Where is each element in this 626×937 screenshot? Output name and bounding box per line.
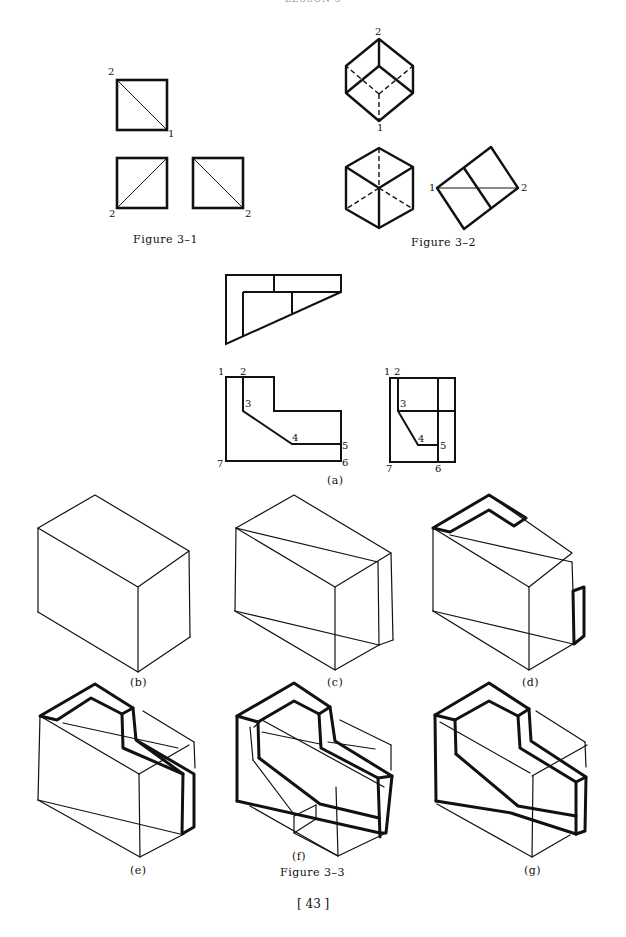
sketch-g xyxy=(435,683,587,857)
subfigure-c-caption: (c) xyxy=(327,676,343,689)
subfigure-f-caption: (f) xyxy=(292,850,306,863)
subfigure-e-caption: (e) xyxy=(130,864,147,877)
page-number: [ 43 ] xyxy=(297,897,329,911)
subfigure-d-caption: (d) xyxy=(522,676,539,689)
sketch-f xyxy=(237,683,392,856)
subfigure-b-caption: (b) xyxy=(130,676,147,689)
sketch-d xyxy=(433,495,584,670)
sketch-c xyxy=(235,495,393,670)
subfigure-g-caption: (g) xyxy=(524,864,541,877)
figure-3-3-caption: Figure 3–3 xyxy=(280,866,345,879)
sketch-e xyxy=(38,684,195,857)
isometric-sketches xyxy=(0,0,626,937)
sketch-b xyxy=(38,495,190,672)
